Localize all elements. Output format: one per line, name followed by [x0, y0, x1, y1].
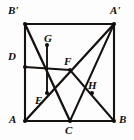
crease-C-Aprime [70, 24, 114, 121]
vertex-dot-h [90, 91, 94, 95]
vertex-dot-bp [23, 22, 27, 26]
vertex-dot-d [23, 65, 27, 69]
vertex-dot-e [45, 91, 49, 95]
vertex-dot-ap [112, 22, 116, 26]
vertex-dot-f [68, 68, 72, 72]
vertex-dot-c [68, 119, 72, 123]
figure-canvas [0, 0, 134, 140]
segment-layer [25, 24, 114, 121]
vertex-dot-b [112, 119, 116, 123]
point-label-e: E [35, 95, 42, 106]
point-label-f: F [64, 56, 71, 67]
point-label-b: B [119, 114, 126, 125]
point-label-h: H [88, 80, 97, 91]
geometry-figure: ABA'B'CDEFGH [0, 0, 134, 140]
vertex-dot-a [23, 119, 27, 123]
point-label-g: G [44, 33, 52, 44]
point-label-d: D [8, 51, 16, 62]
point-label-ap: A' [110, 5, 120, 16]
point-label-bp: B' [8, 5, 18, 16]
point-label-c: C [65, 125, 72, 136]
crease-F-B [70, 70, 114, 121]
point-label-a: A [9, 114, 16, 125]
